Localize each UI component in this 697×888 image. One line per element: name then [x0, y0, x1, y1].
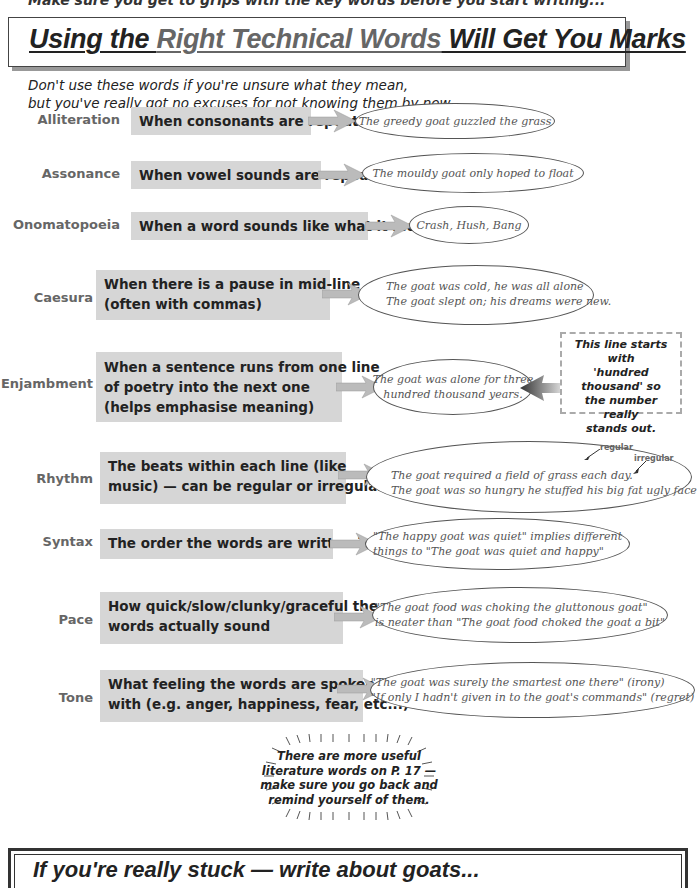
definition-syntax: The order the words are written in [100, 529, 333, 559]
footer-box: If you're really stuck — write about goa… [8, 848, 688, 888]
definition-line: The order the words are written in [108, 533, 325, 553]
example-tone: "The goat was surely the smartest one th… [370, 662, 695, 718]
example-assonance: The mouldy goat only hoped to float [362, 153, 584, 193]
burst-note: There are more useful literature words o… [254, 732, 444, 822]
definition-tone: What feeling the words are spokenwith (e… [100, 670, 363, 722]
example-line: is neater than "The goat food choked the… [375, 615, 665, 630]
definition-rhythm: The beats within each line (likemusic) —… [100, 452, 346, 504]
burst-line: remind yourself of them. [254, 793, 444, 808]
example-caesura: The goat was cold, he was all aloneThe g… [358, 265, 594, 325]
definition-assonance: When vowel sounds are repeated [131, 161, 321, 189]
example-onomatopoeia: Crash, Hush, Bang [409, 206, 529, 244]
definition-line: with (e.g. anger, happiness, fear, etc..… [108, 694, 355, 714]
definition-line: music) — can be regular or irregular [108, 476, 338, 496]
arrow-icon [318, 162, 368, 188]
definition-enjambment: When a sentence runs from one lineof poe… [96, 352, 342, 422]
burst-line: There are more useful [254, 749, 444, 764]
example-line: "If only I hadn't given in to the goat's… [371, 690, 694, 705]
intro-line-1: Don't use these words if you're unsure w… [28, 76, 463, 94]
example-line: The greedy goat guzzled the grass [359, 114, 552, 129]
definition-line: (often with commas) [104, 294, 322, 314]
example-line: The goat slept on; his dreams were new. [386, 294, 611, 309]
term-caesura: Caesura [0, 290, 93, 305]
definition-line: of poetry into the next one [104, 377, 334, 397]
example-line: The goat was so hungry he stuffed his bi… [391, 483, 697, 498]
note-line: stands out. [566, 422, 676, 436]
definition-alliteration: When consonants are repeated [131, 107, 311, 135]
example-line: The mouldy goat only hoped to float [372, 166, 573, 181]
arrow-icon [308, 108, 358, 134]
definition-line: words actually sound [108, 616, 335, 636]
title-part2: Right Technical Words [157, 24, 442, 54]
term-onomatopoeia: Onomatopoeia [0, 217, 120, 232]
definition-line: What feeling the words are spoken [108, 674, 355, 694]
example-enjambment: The goat was alone for threehundred thou… [373, 359, 533, 415]
definition-pace: How quick/slow/clunky/graceful thewords … [100, 592, 343, 644]
example-line: The goat was alone for three [373, 372, 534, 387]
title-part3: Will Get You Marks [441, 24, 686, 54]
example-alliteration: The greedy goat guzzled the grass [355, 103, 555, 139]
note-line: This line starts with [566, 338, 676, 366]
cut-off-heading: Make sure you get to grips with the key … [28, 0, 605, 8]
enjambment-note: This line starts with 'hundred thousand'… [560, 332, 682, 414]
note-line: the number really [566, 394, 676, 422]
example-pace: "The goat food was choking the gluttonou… [372, 587, 668, 643]
term-syntax: Syntax [0, 534, 93, 549]
definition-line: When a sentence runs from one line [104, 357, 334, 377]
annotation-arrows-icon [578, 449, 658, 479]
page-title: Using the Right Technical Words Will Get… [29, 24, 686, 55]
example-line: "The goat was surely the smartest one th… [371, 675, 694, 690]
dark-arrow-icon [520, 373, 562, 403]
example-line: "The happy goat was quiet" implies diffe… [373, 529, 622, 544]
term-pace: Pace [0, 612, 93, 627]
title-box: Using the Right Technical Words Will Get… [8, 17, 626, 67]
burst-line: make sure you go back and [254, 778, 444, 793]
footer-text: If you're really stuck — write about goa… [33, 857, 480, 883]
term-rhythm: Rhythm [0, 471, 93, 486]
definition-line: The beats within each line (like [108, 456, 338, 476]
example-syntax: "The happy goat was quiet" implies diffe… [365, 518, 630, 570]
definition-line: When a word sounds like what it means [139, 216, 360, 236]
burst-text: There are more useful literature words o… [254, 749, 444, 807]
term-alliteration: Alliteration [0, 112, 120, 127]
term-enjambment: Enjambment [0, 376, 93, 391]
term-assonance: Assonance [0, 166, 120, 181]
arrow-icon [365, 213, 415, 239]
example-line: "The goat food was choking the gluttonou… [375, 600, 665, 615]
definition-line: How quick/slow/clunky/graceful the [108, 596, 335, 616]
example-line: Crash, Hush, Bang [416, 218, 521, 233]
note-line: 'hundred thousand' so [566, 366, 676, 394]
definition-line: When vowel sounds are repeated [139, 165, 313, 185]
definition-line: (helps emphasise meaning) [104, 397, 334, 417]
example-line: hundred thousand years. [373, 387, 534, 402]
definition-caesura: When there is a pause in mid-line(often … [96, 270, 330, 320]
title-part1: Using the [29, 24, 157, 54]
definition-line: When consonants are repeated [139, 111, 303, 131]
burst-line: literature words on P. 17 — [254, 764, 444, 779]
definition-onomatopoeia: When a word sounds like what it means [131, 212, 368, 240]
example-line: things to "The goat was quiet and happy" [373, 544, 622, 559]
example-line: The goat was cold, he was all alone [386, 279, 611, 294]
definition-line: When there is a pause in mid-line [104, 274, 322, 294]
term-tone: Tone [0, 690, 93, 705]
